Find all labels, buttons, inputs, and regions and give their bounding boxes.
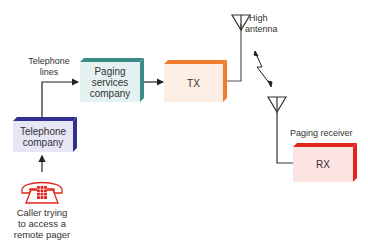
- paging-services-box: Paging services company: [80, 62, 140, 102]
- paging-label-3: company: [90, 88, 131, 99]
- tx-box: TX: [164, 64, 223, 102]
- paging-receiver-label: Paging receiver: [290, 128, 353, 139]
- receiver-antenna-icon: [268, 97, 286, 112]
- telephone-lines-wire: [42, 82, 78, 118]
- tx-label: TX: [187, 78, 200, 89]
- high-antenna-label: High antenna: [245, 13, 278, 35]
- caller-label-1: Caller trying: [8, 207, 76, 218]
- paging-label-1: Paging: [90, 66, 131, 77]
- telephone-lines-label-2: lines: [24, 67, 74, 78]
- telephone-icon: [22, 183, 62, 204]
- tel-label-2: company: [20, 137, 66, 148]
- caller-label: Caller trying to access a remote pager: [8, 207, 76, 240]
- rx-box: RX: [293, 147, 353, 182]
- telephone-company-box: Telephone company: [13, 121, 73, 152]
- telephone-lines-label: Telephone lines: [24, 56, 74, 78]
- caller-label-3: remote pager: [8, 229, 76, 240]
- tx-to-antenna-wire: [225, 24, 241, 81]
- high-antenna-label-1: High: [245, 13, 278, 24]
- radio-link-icon: [254, 51, 272, 87]
- high-antenna-label-2: antenna: [245, 24, 278, 35]
- paging-label-2: services: [90, 77, 131, 88]
- paging-receiver-text: Paging receiver: [290, 128, 353, 138]
- telephone-lines-label-1: Telephone: [24, 56, 74, 67]
- rx-label: RX: [316, 159, 330, 170]
- caller-label-2: to access a: [8, 218, 76, 229]
- tel-label-1: Telephone: [20, 126, 66, 137]
